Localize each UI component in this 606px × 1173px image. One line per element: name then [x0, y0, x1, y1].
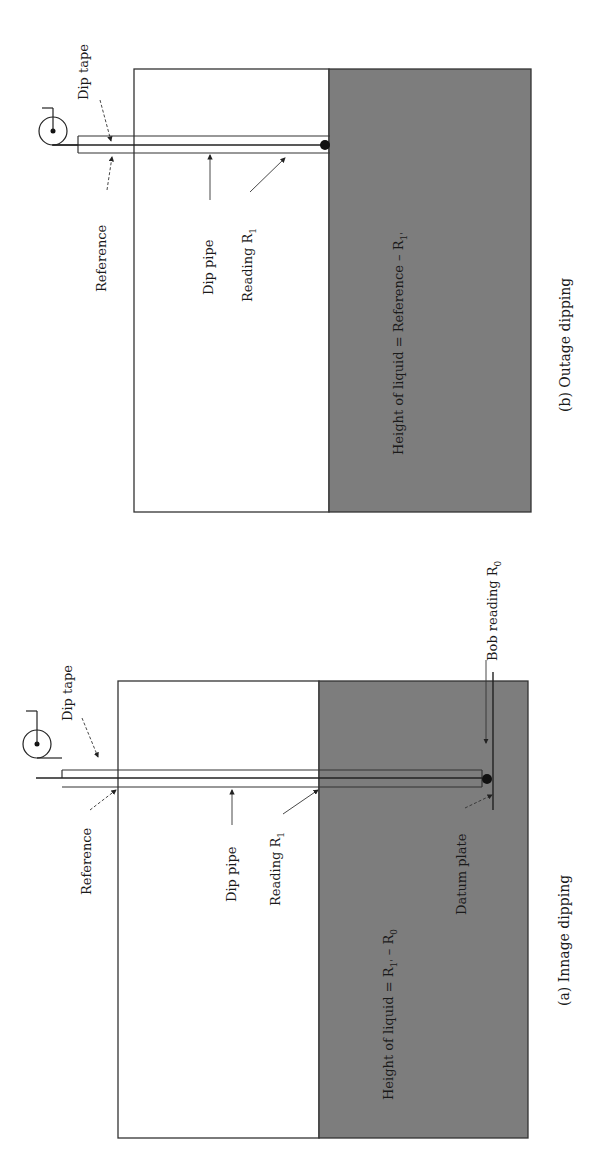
- dip-tape-b-label: Dip tape: [76, 44, 91, 100]
- reference-b-label: Reference: [94, 224, 109, 292]
- reference-b-pointer: [107, 157, 112, 190]
- dipping-diagram: Dip tape Reference Dip pipe Reading R1 H…: [0, 0, 606, 1173]
- caption-b: (b) Outage dipping: [557, 278, 573, 412]
- dip-tape-a-label: Dip tape: [60, 665, 75, 721]
- tank-b-liquid: [329, 69, 531, 512]
- tank-a-liquid: [319, 681, 528, 1138]
- panel-outage-dipping: Dip tape Reference Dip pipe Reading R1 H…: [39, 44, 573, 512]
- bob-b-icon: [320, 140, 330, 150]
- tank-a-empty-space: [118, 681, 319, 1138]
- panel-innage-dipping: Dip tape Reference Dip pipe Reading R1 B…: [23, 560, 572, 1138]
- reference-a-label: Reference: [79, 827, 94, 895]
- dip-tape-a-pointer: [82, 718, 98, 757]
- datum-plate-a-label: Datum plate: [454, 833, 469, 915]
- dip-pipe-b-label: Dip pipe: [201, 239, 216, 295]
- bob-a-icon: [482, 774, 492, 784]
- reel-b-icon: [39, 108, 78, 145]
- bob-reading-a-label: Bob reading R0: [485, 560, 503, 661]
- dip-tape-b-pointer: [100, 100, 111, 141]
- reel-a-icon: [23, 711, 62, 758]
- dip-pipe-a-label: Dip pipe: [224, 846, 239, 902]
- reference-a-pointer: [90, 790, 116, 810]
- caption-a: (a) Innage dipping: [556, 875, 572, 1006]
